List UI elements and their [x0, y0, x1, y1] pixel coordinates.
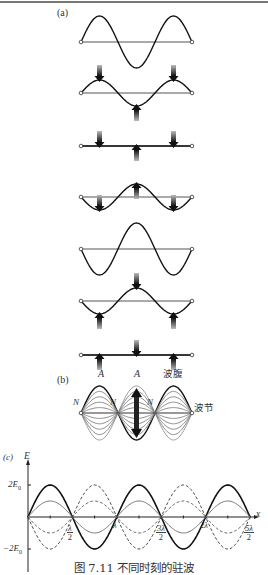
velocity-arrow-up-icon	[95, 312, 105, 329]
x-tick-lambda: λ	[113, 520, 117, 530]
x-tick-5half-lambda: 5λ2	[244, 524, 254, 541]
snapshot-row-4	[79, 182, 194, 212]
antinode-label-a2: A	[134, 368, 140, 379]
panel-c-label: (c)	[3, 452, 13, 462]
y-axis-label: E	[24, 451, 30, 461]
snapshot-row-6	[79, 273, 194, 329]
x-tick-2lambda: 2λ	[200, 520, 208, 530]
panel-b-label: (b)	[57, 374, 69, 385]
x-tick-half-lambda: λ2	[67, 524, 73, 541]
panel-a-snapshots	[79, 16, 194, 370]
node-label-n1: N	[73, 397, 79, 407]
panel-b-envelope	[79, 386, 194, 440]
snapshot-row-5	[79, 223, 194, 275]
velocity-arrow-down-icon	[169, 65, 179, 82]
panel-a-label: (a)	[57, 7, 68, 18]
velocity-arrow-up-icon	[132, 104, 142, 121]
snapshot-row-3	[79, 131, 194, 161]
snapshot-row-2	[79, 65, 194, 121]
x-axis-label: x	[256, 509, 260, 519]
velocity-arrow-up-icon	[169, 312, 179, 329]
node-label-n3: N	[147, 397, 153, 407]
velocity-arrow-down-icon	[132, 273, 142, 290]
antinode-text: 波腹	[163, 366, 183, 380]
x-tick-3half-lambda: 3λ2	[156, 524, 166, 541]
node-text: 波节	[194, 400, 214, 414]
node-label-n2: N	[110, 397, 116, 407]
antinode-label-a1: A	[98, 368, 104, 379]
snapshot-row-1	[79, 16, 194, 68]
panel-c-energy-plot	[26, 459, 259, 572]
y-tick-neg-2e0: −2E0	[3, 543, 22, 555]
y-tick-2e0: 2E0	[8, 479, 21, 491]
velocity-arrow-down-icon	[95, 65, 105, 82]
figure-caption: 图 7.11 不同时刻的驻波	[0, 559, 268, 575]
standing-wave-figure	[0, 0, 268, 575]
